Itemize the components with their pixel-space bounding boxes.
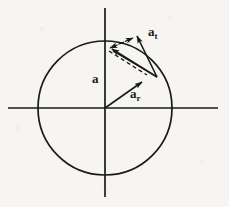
diagram-canvas [0,0,229,207]
total-acceleration-label-base: a [92,71,99,86]
dashed-parallelogram-side-edge [109,51,147,75]
tangential-acceleration-label-subscript: t [155,31,158,41]
acceleration-circle-diagram: a at ar [0,0,229,207]
tangential-acceleration-label: at [148,25,158,41]
total-acceleration-label: a [92,72,99,88]
radial-acceleration-label: ar [130,87,141,103]
radial-acceleration-label-subscript: r [137,93,141,103]
radius-continuation [142,77,157,82]
